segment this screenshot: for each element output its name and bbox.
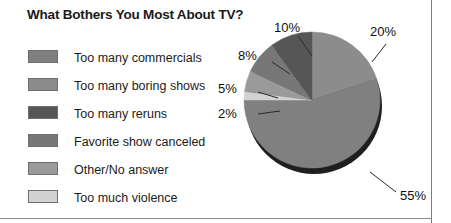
pie-chart: 10% 20% 8% 5% 2% 55% xyxy=(236,12,436,212)
legend-swatch-fill xyxy=(28,190,58,203)
legend-swatch-boring-shows xyxy=(28,78,64,94)
pie-label-55: 55% xyxy=(400,188,426,203)
legend-item-favorite-canceled: Favorite show canceled xyxy=(28,128,233,156)
chart-legend: Too many commercials Too many boring sho… xyxy=(28,44,233,212)
frame-bottom-border xyxy=(0,218,432,219)
legend-swatch-fill xyxy=(28,78,58,91)
legend-swatch-fill xyxy=(28,134,58,147)
legend-swatch-fill xyxy=(28,106,58,119)
pie-label-20: 20% xyxy=(370,24,396,39)
legend-label: Too many boring shows xyxy=(74,79,205,93)
legend-item-commercials: Too many commercials xyxy=(28,44,233,72)
pie-label-2: 2% xyxy=(218,106,237,121)
legend-label: Too many commercials xyxy=(74,51,202,65)
legend-swatch-other-no-answer xyxy=(28,162,64,178)
leader-line xyxy=(370,172,396,192)
pie-label-5: 5% xyxy=(218,81,237,96)
pie-label-10: 10% xyxy=(274,20,300,35)
legend-swatch-fill xyxy=(28,50,58,63)
legend-item-reruns: Too many reruns xyxy=(28,100,233,128)
legend-swatch-commercials xyxy=(28,50,64,66)
legend-label: Other/No answer xyxy=(74,163,168,177)
legend-label: Too much violence xyxy=(74,191,178,205)
legend-item-boring-shows: Too many boring shows xyxy=(28,72,233,100)
legend-swatch-favorite-canceled xyxy=(28,134,64,150)
legend-swatch-fill xyxy=(28,162,58,175)
chart-page: What Bothers You Most About TV? Too many… xyxy=(0,0,451,223)
legend-label: Too many reruns xyxy=(74,107,167,121)
legend-swatch-reruns xyxy=(28,106,64,122)
pie-svg xyxy=(236,12,436,212)
legend-swatch-violence xyxy=(28,190,64,206)
legend-label: Favorite show canceled xyxy=(74,135,205,149)
legend-item-other-no-answer: Other/No answer xyxy=(28,156,233,184)
pie-slice-group xyxy=(244,32,382,174)
page-title: What Bothers You Most About TV? xyxy=(27,7,243,22)
legend-item-violence: Too much violence xyxy=(28,184,233,212)
leader-line xyxy=(372,44,386,62)
pie-label-8: 8% xyxy=(238,48,257,63)
